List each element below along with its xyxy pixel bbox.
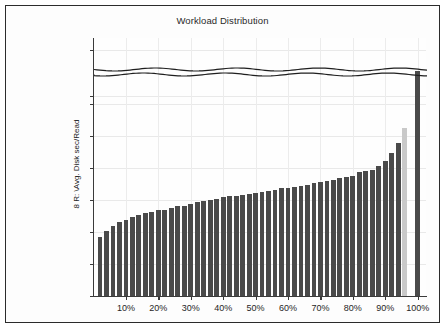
bar (111, 226, 116, 296)
bar (286, 188, 291, 296)
y-tick-mark (90, 264, 94, 265)
bar (273, 190, 278, 296)
bar (402, 128, 407, 296)
chart-frame: Workload Distribution 8 R: \Avg. Disk se… (5, 5, 440, 323)
bar (162, 210, 167, 296)
y-tick-mark (90, 104, 94, 105)
bar (253, 193, 258, 296)
bar (266, 191, 271, 296)
x-tick-mark (320, 296, 321, 300)
bar (383, 161, 388, 296)
bar (363, 171, 368, 296)
bar (227, 196, 232, 296)
bar (143, 213, 148, 296)
bar (357, 172, 362, 296)
bar (376, 166, 381, 296)
x-tick-label: 90% (376, 303, 394, 313)
bar (124, 220, 129, 296)
bar (104, 231, 109, 296)
bar (370, 170, 375, 296)
bar (234, 196, 239, 296)
bar (344, 177, 349, 296)
bar (175, 206, 180, 296)
x-tick-label: 30% (182, 303, 200, 313)
bar (208, 200, 213, 296)
bar (337, 178, 342, 296)
bar (318, 182, 323, 296)
x-tick-mark (418, 296, 419, 300)
y-tick-mark (90, 168, 94, 169)
bar (247, 194, 252, 296)
y-tick-mark (90, 232, 94, 233)
x-tick-label: 10% (117, 303, 135, 313)
bar (221, 197, 226, 296)
x-tick-mark (256, 296, 257, 300)
y-axis-title: 8 R: \Avg. Disk sec/Read (72, 120, 81, 209)
bar (117, 222, 122, 296)
bar (156, 210, 161, 296)
bar (130, 217, 135, 296)
x-tick-label: 40% (214, 303, 232, 313)
bar (136, 215, 141, 296)
x-tick-mark (223, 296, 224, 300)
bar (188, 204, 193, 296)
bar (260, 192, 265, 296)
x-tick-mark (126, 296, 127, 300)
y-tick-mark (90, 296, 94, 297)
x-tick-mark (158, 296, 159, 300)
bar (396, 143, 401, 296)
x-tick-label: 80% (344, 303, 362, 313)
gridline (94, 50, 426, 51)
x-tick-mark (353, 296, 354, 300)
bar (98, 237, 103, 296)
bar (182, 206, 187, 296)
gridline (94, 104, 426, 105)
bar (415, 71, 420, 296)
bar (331, 180, 336, 296)
bar (312, 183, 317, 296)
x-tick-label: 60% (279, 303, 297, 313)
y-tick-mark (90, 96, 94, 97)
bar (195, 202, 200, 296)
x-tick-label: 20% (149, 303, 167, 313)
bar (201, 201, 206, 296)
y-tick-mark (90, 50, 94, 51)
x-tick-label: 50% (247, 303, 265, 313)
x-tick-label: 100% (406, 303, 429, 313)
x-tick-mark (191, 296, 192, 300)
x-tick-mark (288, 296, 289, 300)
bar (389, 153, 394, 296)
x-tick-label: 70% (311, 303, 329, 313)
bar (149, 212, 154, 296)
x-axis-line (93, 296, 427, 297)
bar (279, 188, 284, 296)
bar (292, 187, 297, 296)
chart-title: Workload Distribution (6, 15, 439, 26)
bar (350, 176, 355, 296)
bar (325, 181, 330, 296)
plot-area (94, 38, 426, 296)
y-tick-mark (90, 200, 94, 201)
bar (305, 185, 310, 296)
gridline (94, 96, 426, 97)
gridline (94, 136, 426, 137)
bar (299, 186, 304, 296)
bar (240, 195, 245, 296)
x-tick-mark (385, 296, 386, 300)
bar (169, 208, 174, 296)
bar (214, 199, 219, 296)
y-tick-mark (90, 136, 94, 137)
